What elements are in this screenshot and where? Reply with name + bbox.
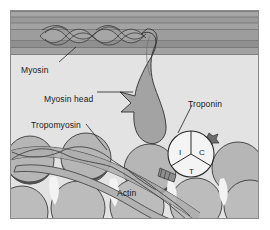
label-troponin: Troponin xyxy=(188,100,222,109)
label-actin: Actin xyxy=(117,189,136,198)
troponin-subunit-c: C xyxy=(199,149,205,157)
label-myosin: Myosin xyxy=(21,66,49,75)
troponin-subunit-i: I xyxy=(179,149,181,157)
label-myosin-head: Myosin head xyxy=(44,95,93,104)
muscle-contraction-figure: Myosin Myosin head Tropomyosin Troponin … xyxy=(0,0,270,230)
label-tropomyosin: Tropomyosin xyxy=(31,121,81,130)
troponin-subunit-t: T xyxy=(189,168,194,176)
